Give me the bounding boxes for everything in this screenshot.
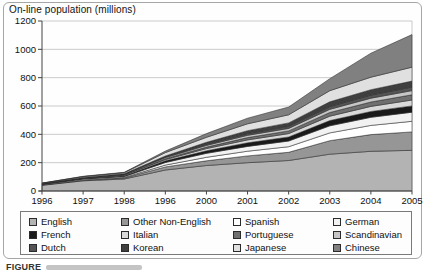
figure-caption: FIGURE	[6, 262, 142, 271]
x-tick-label-6: 2002	[278, 195, 299, 206]
legend-item-portuguese: Portuguese	[233, 229, 333, 240]
legend-swatch-icon	[121, 218, 129, 226]
legend-label: Spanish	[245, 216, 279, 227]
legend-swatch-icon	[333, 231, 341, 239]
chart-legend: EnglishOther Non-EnglishSpanishGermanFre…	[20, 211, 412, 255]
legend-item-spanish: Spanish	[233, 216, 333, 227]
legend-label: Chinese	[345, 242, 380, 253]
legend-swatch-icon	[29, 231, 37, 239]
x-tick-label-0: 1996	[31, 195, 52, 206]
legend-item-other-non-english: Other Non-English	[121, 216, 233, 227]
legend-swatch-icon	[121, 244, 129, 252]
x-tick-label-9: 2005	[401, 195, 422, 206]
y-tick-label-600: 600	[20, 100, 36, 111]
y-tick-label-800: 800	[20, 72, 36, 83]
legend-swatch-icon	[233, 218, 241, 226]
x-tick-label-2: 1998	[114, 195, 135, 206]
legend-swatch-icon	[233, 231, 241, 239]
legend-item-french: French	[29, 229, 121, 240]
legend-label: French	[41, 229, 71, 240]
x-tick-label-3: 1996	[155, 195, 176, 206]
legend-item-german: German	[333, 216, 411, 227]
legend-label: Korean	[133, 242, 164, 253]
legend-item-italian: Italian	[121, 229, 233, 240]
y-tick-label-1000: 1000	[15, 44, 36, 55]
x-tick-label-4: 2000	[196, 195, 217, 206]
figure-caption-label: FIGURE	[6, 262, 41, 271]
y-tick-label-1200: 1200	[15, 15, 36, 26]
legend-swatch-icon	[121, 231, 129, 239]
legend-label: English	[41, 216, 72, 227]
x-tick-label-1: 1997	[73, 195, 94, 206]
legend-label: Dutch	[41, 242, 66, 253]
legend-swatch-icon	[29, 218, 37, 226]
legend-label: Other Non-English	[133, 216, 211, 227]
caption-illegible-text	[46, 265, 142, 270]
legend-swatch-icon	[29, 244, 37, 252]
legend-item-english: English	[29, 216, 121, 227]
y-tick-label-200: 200	[20, 157, 36, 168]
legend-swatch-icon	[333, 244, 341, 252]
legend-swatch-icon	[333, 218, 341, 226]
legend-item-dutch: Dutch	[29, 242, 121, 253]
legend-swatch-icon	[233, 244, 241, 252]
legend-label: Scandinavian	[345, 229, 402, 240]
figure-screenshot: On-line population (millions) 0200400600…	[0, 0, 426, 271]
legend-label: Portuguese	[245, 229, 294, 240]
x-tick-label-7: 2003	[319, 195, 340, 206]
legend-label: Japanese	[245, 242, 286, 253]
legend-item-scandinavian: Scandinavian	[333, 229, 411, 240]
x-tick-label-8: 2004	[360, 195, 381, 206]
legend-item-japanese: Japanese	[233, 242, 333, 253]
legend-item-korean: Korean	[121, 242, 233, 253]
legend-label: German	[345, 216, 379, 227]
legend-item-chinese: Chinese	[333, 242, 411, 253]
x-tick-label-5: 2001	[237, 195, 258, 206]
y-tick-label-400: 400	[20, 129, 36, 140]
legend-label: Italian	[133, 229, 158, 240]
